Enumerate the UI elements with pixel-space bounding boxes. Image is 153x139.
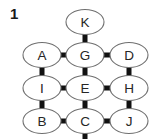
graph-node-h[interactable]: H bbox=[110, 76, 148, 101]
graph-node-e[interactable]: E bbox=[66, 76, 104, 101]
graph-node-label-i: I bbox=[40, 81, 44, 96]
graph-diagram: KAGDIEHBCJ bbox=[0, 0, 153, 139]
graph-node-i[interactable]: I bbox=[23, 76, 61, 101]
graph-node-label-b: B bbox=[37, 114, 46, 129]
graph-node-label-j: J bbox=[126, 114, 133, 129]
graph-node-g[interactable]: G bbox=[66, 43, 104, 68]
graph-node-j[interactable]: J bbox=[110, 109, 148, 134]
graph-node-label-e: E bbox=[80, 81, 89, 96]
graph-node-label-a: A bbox=[37, 48, 46, 63]
graph-node-b[interactable]: B bbox=[23, 109, 61, 134]
graph-node-label-k: K bbox=[80, 15, 89, 30]
graph-node-c[interactable]: C bbox=[66, 109, 104, 134]
graph-node-d[interactable]: D bbox=[110, 43, 148, 68]
graph-node-a[interactable]: A bbox=[23, 43, 61, 68]
graph-node-label-h: H bbox=[124, 81, 134, 96]
graph-node-label-c: C bbox=[80, 114, 90, 129]
graph-node-label-d: D bbox=[124, 48, 134, 63]
figure-canvas: 1 KAGDIEHBCJ bbox=[0, 0, 153, 139]
graph-node-label-g: G bbox=[80, 48, 91, 63]
graph-node-k[interactable]: K bbox=[66, 10, 104, 35]
